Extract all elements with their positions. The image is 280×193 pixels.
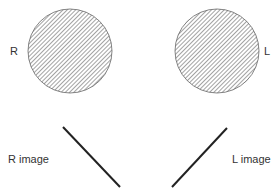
left-image-line — [172, 128, 227, 187]
left-image-label: L image — [232, 154, 271, 165]
right-eye-circle — [28, 9, 112, 93]
right-image-line — [63, 127, 120, 187]
right-eye-label: R — [10, 46, 18, 57]
left-eye-circle — [175, 9, 259, 93]
right-image-label: R image — [8, 154, 49, 165]
left-eye-label: L — [264, 46, 270, 57]
